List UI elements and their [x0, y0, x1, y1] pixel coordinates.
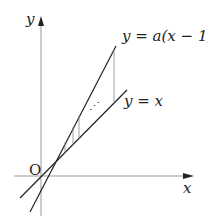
diagram-canvas: y x O y = a(x − 1) y = x ⋰: [0, 0, 208, 224]
y-axis-label: y: [25, 10, 35, 28]
origin-label: O: [29, 161, 41, 179]
line-y-equals-x: [20, 90, 127, 198]
line2-label: y = x: [123, 92, 164, 110]
x-axis-label: x: [183, 179, 192, 197]
line1-label: y = a(x − 1): [121, 27, 208, 45]
continuation-dots: ⋰: [89, 100, 100, 113]
y-axis-arrow-icon: [38, 16, 44, 26]
